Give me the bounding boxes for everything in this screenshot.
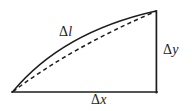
delta-symbol-l: Δ [59, 24, 68, 39]
geometry-figure: Δl Δy Δx [0, 0, 192, 111]
label-delta-l: Δl [59, 25, 72, 39]
label-delta-x: Δx [91, 93, 107, 107]
variable-symbol-l: l [68, 24, 72, 39]
dashed-chord-path [13, 12, 156, 92]
delta-symbol-y: Δ [163, 42, 172, 57]
arc-curve-path [13, 11, 157, 92]
label-delta-y: Δy [163, 43, 179, 57]
variable-symbol-y: y [172, 42, 178, 57]
delta-symbol-x: Δ [91, 92, 100, 107]
variable-symbol-x: x [100, 92, 106, 107]
